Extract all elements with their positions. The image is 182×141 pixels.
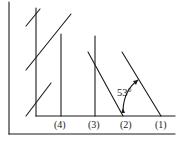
label-4: (4)	[54, 119, 66, 131]
label-1: (1)	[155, 119, 167, 131]
label-3: (3)	[88, 119, 100, 131]
label-2: (2)	[120, 119, 132, 131]
inclined-line-1	[122, 52, 161, 116]
angle-label: 53°	[117, 87, 132, 98]
inclined-line-middle	[26, 14, 71, 70]
arrowhead-icon	[121, 108, 125, 113]
inclined-line-top	[26, 9, 40, 26]
diagram-canvas: 53° (4) (3) (2) (1)	[0, 0, 182, 141]
inclined-line-bottom	[26, 83, 51, 116]
inclined-line-2	[88, 52, 123, 116]
